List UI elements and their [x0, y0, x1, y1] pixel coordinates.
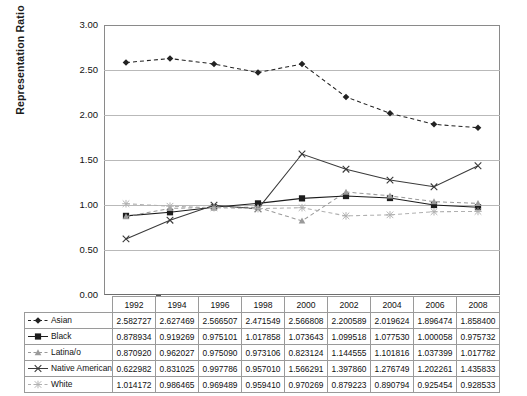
- table-cell-value: 1.000058: [413, 329, 456, 345]
- table-cell-value: 0.997786: [198, 361, 241, 377]
- legend-entry: Asian: [25, 313, 113, 329]
- table-column-header: 2008: [456, 297, 499, 313]
- legend-entry: White: [25, 377, 113, 393]
- series-layer: [104, 25, 500, 295]
- data-point-asterisk: [166, 202, 174, 210]
- table-column-header: 2004: [370, 297, 413, 313]
- y-axis-tick-label: 1.50: [64, 155, 98, 165]
- table-row: Asian2.5827272.6274692.5665072.4715492.5…: [25, 313, 500, 329]
- data-table: 199219941996199820002002200420062008 Asi…: [24, 296, 500, 393]
- table-cell-value: 0.973106: [241, 345, 284, 361]
- plot-area: [104, 25, 500, 295]
- table-cell-value: 1.101816: [370, 345, 413, 361]
- table-cell-value: 0.969489: [198, 377, 241, 393]
- table-column-header: 2006: [413, 297, 456, 313]
- table-cell-value: 1.276749: [370, 361, 413, 377]
- data-point-asterisk: [122, 200, 130, 208]
- series-line: [126, 59, 478, 128]
- table-cell-value: 0.970269: [284, 377, 327, 393]
- data-point-diamond: [211, 61, 218, 68]
- data-point-triangle: [475, 200, 482, 206]
- table-cell-value: 0.975732: [456, 329, 499, 345]
- table-column-header: 1996: [198, 297, 241, 313]
- legend-entry: Black: [25, 329, 113, 345]
- legend-label: Asian: [51, 315, 72, 326]
- table-header-row: 199219941996199820002002200420062008: [25, 297, 500, 313]
- data-point-x-cross: [299, 151, 306, 158]
- table-row: Native American0.6229820.8310250.9977860…: [25, 361, 500, 377]
- legend-label: Latina/o: [51, 347, 81, 358]
- data-point-asterisk: [386, 211, 394, 219]
- table-cell-value: 2.627469: [155, 313, 198, 329]
- data-point-diamond: [35, 317, 42, 324]
- data-point-asterisk: [254, 205, 262, 213]
- data-point-x-cross: [167, 217, 174, 224]
- data-point-square: [299, 195, 305, 201]
- table-cell-value: 2.471549: [241, 313, 284, 329]
- series-white: [122, 200, 482, 220]
- legend-label: Native American: [51, 363, 112, 374]
- data-point-diamond: [475, 124, 482, 131]
- table-column-header: 2000: [284, 297, 327, 313]
- data-point-asterisk: [298, 204, 306, 212]
- legend-key-diamond-icon: [27, 315, 49, 326]
- y-axis-tick-label: 1.00: [64, 200, 98, 210]
- data-point-asterisk: [34, 381, 42, 389]
- table-cell-value: 1.017782: [456, 345, 499, 361]
- table-cell-value: 1.202261: [413, 361, 456, 377]
- y-axis-tick-label: 2.00: [64, 110, 98, 120]
- legend-entry: Latina/o: [25, 345, 113, 361]
- table-cell-value: 2.200589: [327, 313, 370, 329]
- legend-key-x-cross-icon: [27, 363, 49, 374]
- y-axis-tick-label: 2.50: [64, 65, 98, 75]
- data-point-triangle: [343, 189, 350, 195]
- chart-figure: Representation Ratio 3.002.502.001.501.0…: [0, 0, 527, 396]
- data-point-square: [35, 333, 41, 339]
- y-axis-title: Representation Ratio: [14, 0, 26, 140]
- data-point-diamond: [299, 61, 306, 68]
- legend-label: Black: [51, 331, 71, 342]
- table-cell-value: 0.870920: [112, 345, 155, 361]
- table-cell-value: 0.959410: [241, 377, 284, 393]
- table-cell-value: 1.073643: [284, 329, 327, 345]
- data-point-diamond: [431, 121, 438, 128]
- series-asian: [123, 55, 482, 131]
- table-row: Latina/o0.8709200.9620270.9750900.973106…: [25, 345, 500, 361]
- table-cell-value: 0.925454: [413, 377, 456, 393]
- table-cell-value: 1.037399: [413, 345, 456, 361]
- table-cell-value: 1.858400: [456, 313, 499, 329]
- table-cell-value: 2.019624: [370, 313, 413, 329]
- legend-key-square-icon: [27, 331, 49, 342]
- table-cell-value: 0.831025: [155, 361, 198, 377]
- table-cell-value: 1.017858: [241, 329, 284, 345]
- data-point-asterisk: [474, 208, 482, 216]
- table-cell-value: 0.622982: [112, 361, 155, 377]
- data-point-diamond: [123, 59, 130, 66]
- table-cell-value: 2.566507: [198, 313, 241, 329]
- table-cell-value: 0.823124: [284, 345, 327, 361]
- data-point-x-cross: [343, 166, 350, 173]
- table-cell-value: 0.975090: [198, 345, 241, 361]
- table-column-header: 2002: [327, 297, 370, 313]
- data-point-diamond: [167, 55, 174, 62]
- y-axis-tick-label: 3.00: [64, 20, 98, 30]
- data-point-asterisk: [430, 208, 438, 216]
- table-cell-value: 1.435833: [456, 361, 499, 377]
- table-cell-value: 0.879223: [327, 377, 370, 393]
- table-cell-value: 2.582727: [112, 313, 155, 329]
- table-cell-value: 0.878934: [112, 329, 155, 345]
- table-cell-value: 0.986465: [155, 377, 198, 393]
- table-cell-value: 1.014172: [112, 377, 155, 393]
- y-axis-tick-label: 0.50: [64, 245, 98, 255]
- table-cell-value: 1.397860: [327, 361, 370, 377]
- data-point-x-cross: [475, 162, 482, 169]
- data-point-asterisk: [210, 204, 218, 212]
- table-column-header: 1998: [241, 297, 284, 313]
- table-row: White1.0141720.9864650.9694890.9594100.9…: [25, 377, 500, 393]
- y-axis-tick-labels: 3.002.502.001.501.000.500.00: [58, 25, 98, 295]
- data-point-diamond: [343, 94, 350, 101]
- data-point-x-cross: [123, 236, 130, 243]
- table-cell-value: 1.566291: [284, 361, 327, 377]
- table-cell-value: 0.975101: [198, 329, 241, 345]
- table-row: Black0.8789340.9192690.9751011.0178581.0…: [25, 329, 500, 345]
